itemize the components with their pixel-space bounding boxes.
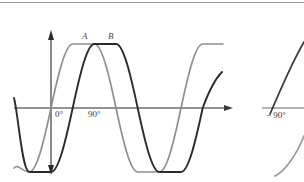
curve-a-label: A [82,31,88,41]
main-sine-figure: A B 0° 90° [0,0,248,182]
side-x-axis-tick-label-minus-90: − 90° [266,110,286,120]
x-axis [14,105,233,111]
side-curve-lower-path [275,136,304,176]
main-figure-svg [0,0,248,182]
side-curve-upper-path [270,42,304,114]
curve-b-label: B [108,31,114,41]
side-figure-svg [248,0,304,182]
x-axis-tick-label-90: 90° [88,109,101,119]
x-axis-tick-label-0: 0° [55,109,63,119]
y-axis [48,30,54,175]
adjacent-partial-figure [248,0,304,182]
figure-page: A B 0° 90° − 90° [0,0,304,182]
